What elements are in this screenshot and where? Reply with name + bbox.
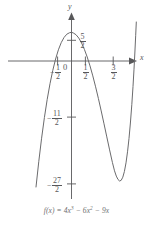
x-tick-half-denominator: 2 [83, 73, 89, 81]
caption-lhs: f(x) = 4x [44, 206, 71, 215]
figure-container: y x 0 −12 12 32 52 −112 −272 f(x) = 4x3 … [0, 0, 153, 230]
function-curve [36, 22, 136, 187]
graph-canvas [0, 0, 153, 205]
caption-mid: − 6x [74, 206, 90, 215]
caption-rhs: − 9x [93, 206, 109, 215]
x-tick-three-halves-denominator: 2 [111, 73, 117, 81]
y-tick-label-five-halves: 52 [79, 33, 86, 50]
origin-label: 0 [63, 63, 67, 72]
x-axis-label: x [140, 54, 144, 62]
x-tick-label-three-halves: 32 [110, 64, 117, 81]
y-tick-neg-twentyseven-halves-denominator: 2 [52, 186, 62, 194]
y-tick-neg-eleven-halves-denominator: 2 [52, 119, 62, 127]
x-axis [8, 58, 137, 65]
x-tick-neg-half-denominator: 2 [55, 73, 61, 81]
y-tick-five-halves-denominator: 2 [80, 42, 86, 50]
x-tick-label-neg-half: −12 [50, 64, 61, 81]
y-axis-label: y [68, 3, 72, 11]
function-caption: f(x) = 4x3 − 6x2 − 9x [0, 206, 153, 215]
y-tick-label-neg-twentyseven-halves: −272 [47, 177, 62, 194]
x-tick-label-half: 12 [82, 64, 89, 81]
y-tick-label-neg-eleven-halves: −112 [47, 110, 62, 127]
